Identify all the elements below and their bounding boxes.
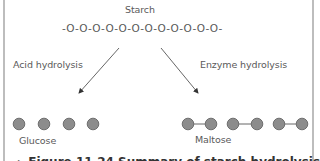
figure-caption: ▸ Figure 11.24 Summary of starch hydroly… xyxy=(18,155,320,161)
enzyme-arrow xyxy=(161,48,198,93)
maltose-label: Maltose xyxy=(195,134,231,145)
glucose-units xyxy=(13,118,99,130)
acid-arrow xyxy=(79,48,119,93)
maltose-units xyxy=(182,118,308,130)
glucose-label: Glucose xyxy=(19,135,56,146)
